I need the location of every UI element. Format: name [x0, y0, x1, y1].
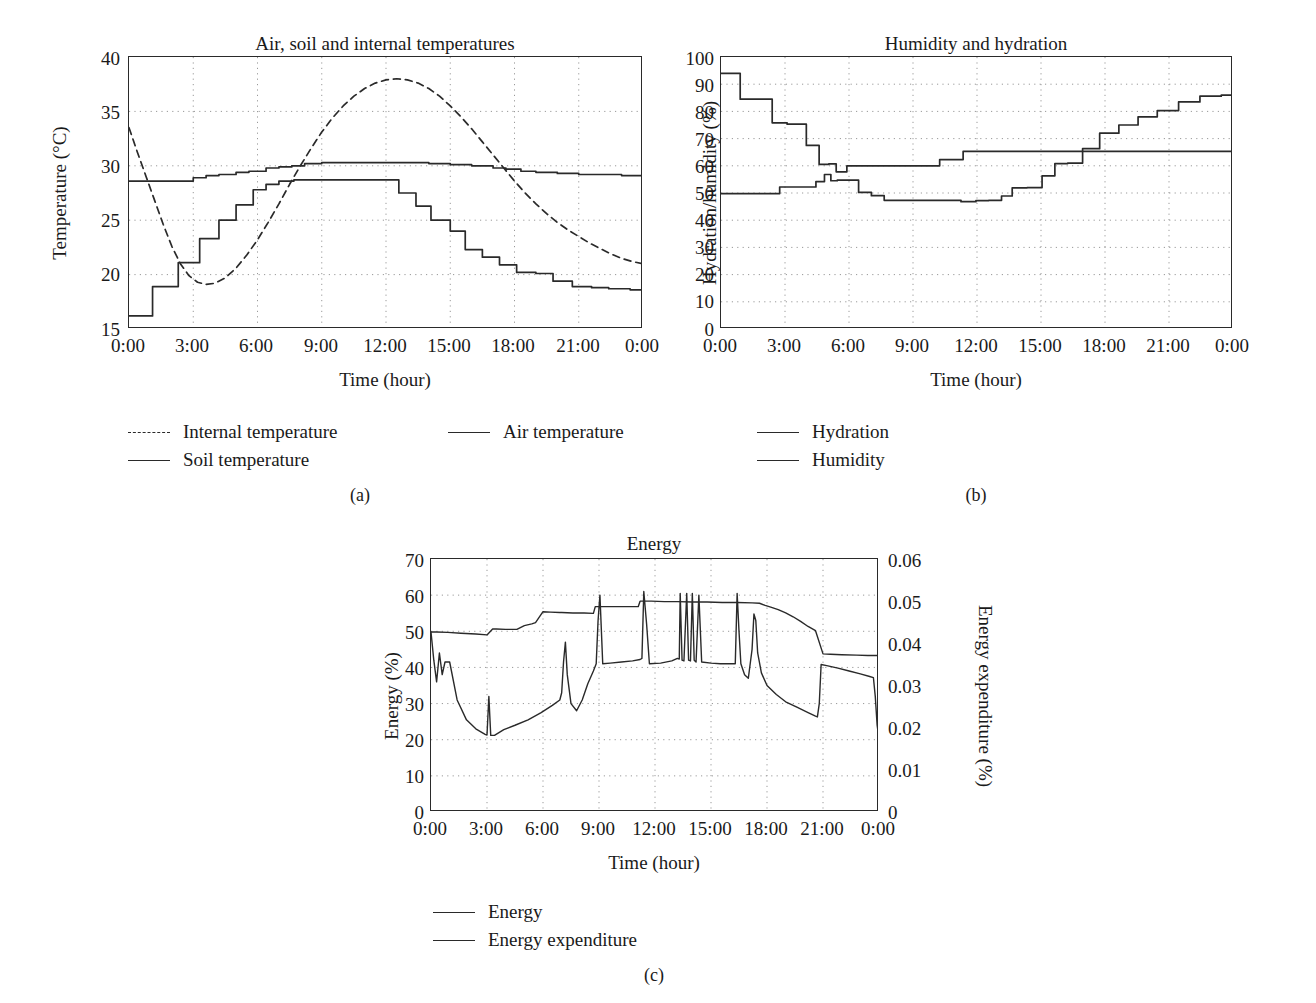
legend-label: Hydration: [812, 421, 889, 443]
legend-label: Soil temperature: [183, 449, 309, 471]
x-tick-a: 18:00: [479, 336, 547, 355]
legend-line-solid-icon: [128, 460, 170, 461]
legend-label: Internal temperature: [183, 421, 338, 443]
legend-item[interactable]: Internal temperature: [128, 418, 448, 446]
y-tick-b: 70: [662, 130, 714, 149]
series-b: [721, 73, 1232, 201]
subfigure-caption-c: (c): [594, 965, 714, 986]
y-tick-a: 30: [68, 157, 120, 176]
legend-c: Energy Energy expenditure: [433, 898, 637, 954]
plot-area-b: [720, 56, 1232, 328]
y-tick-right-c: 0.02: [888, 719, 960, 738]
legend-line-solid-icon: [433, 940, 475, 941]
x-tick-b: 0:00: [686, 336, 754, 355]
y-tick-c: 50: [372, 623, 424, 642]
legend-item[interactable]: Humidity: [757, 446, 889, 474]
y-tick-c: 70: [372, 551, 424, 570]
plot-svg-b: [721, 57, 1232, 328]
x-axis-label-c: Time (hour): [430, 852, 878, 874]
x-tick-b: 6:00: [814, 336, 882, 355]
y-tick-b: 100: [662, 49, 714, 68]
x-tick-a: 15:00: [415, 336, 483, 355]
subfigure-caption-a: (a): [300, 485, 420, 506]
legend-item[interactable]: Hydration: [757, 418, 889, 446]
y-tick-a: 35: [68, 103, 120, 122]
x-tick-b: 9:00: [878, 336, 946, 355]
legend-label: Energy expenditure: [488, 929, 637, 951]
x-tick-a: 12:00: [351, 336, 419, 355]
legend-item[interactable]: Energy expenditure: [433, 926, 637, 954]
plot-svg-c: [431, 559, 878, 811]
x-tick-a: 21:00: [544, 336, 612, 355]
legend-label: Air temperature: [503, 421, 624, 443]
x-tick-b: 12:00: [942, 336, 1010, 355]
x-tick-b: 15:00: [1006, 336, 1074, 355]
y-tick-b: 40: [662, 211, 714, 230]
x-tick-c: 0:00: [844, 819, 912, 838]
y-tick-b: 90: [662, 76, 714, 95]
grid-dots-a: [129, 57, 642, 328]
y-tick-a: 40: [68, 49, 120, 68]
y-tick-right-c: 0.04: [888, 635, 960, 654]
x-tick-b: 18:00: [1070, 336, 1138, 355]
y-tick-a: 20: [68, 265, 120, 284]
x-tick-a: 0:00: [94, 336, 162, 355]
series-line: [721, 88, 1232, 201]
series-line: [431, 601, 878, 655]
x-tick-a: 3:00: [158, 336, 226, 355]
y-tick-c: 30: [372, 695, 424, 714]
chart-title-b: Humidity and hydration: [720, 33, 1232, 55]
y-axis-label-right-c: Energy expenditure (%): [974, 551, 996, 841]
y-tick-right-c: 0.05: [888, 593, 960, 612]
panel-b: Humidity and hydration Hydration/humidit…: [660, 0, 1316, 520]
panel-a: Air, soil and internal temperatures Temp…: [0, 0, 660, 520]
panel-c: Energy Energy (%) Energy expenditure (%)…: [330, 520, 990, 1003]
grid-dots-c: [431, 559, 878, 811]
legend-a: Internal temperature Soil temperature Ai…: [128, 418, 624, 474]
legend-label: Humidity: [812, 449, 885, 471]
legend-item[interactable]: Soil temperature: [128, 446, 448, 474]
y-tick-a: 25: [68, 211, 120, 230]
legend-label: Energy: [488, 901, 543, 923]
legend-line-solid-icon: [757, 432, 799, 433]
y-tick-b: 10: [662, 292, 714, 311]
x-tick-b: 0:00: [1198, 336, 1266, 355]
legend-line-dashed-icon: [128, 432, 170, 433]
y-tick-b: 30: [662, 238, 714, 257]
figure-root: Air, soil and internal temperatures Temp…: [0, 0, 1316, 1003]
legend-b: Hydration Humidity: [757, 418, 889, 474]
legend-item[interactable]: Energy: [433, 898, 637, 926]
y-tick-b: 80: [662, 103, 714, 122]
x-tick-b: 21:00: [1134, 336, 1202, 355]
y-axis-label-a: Temperature (°C): [49, 93, 71, 293]
subfigure-caption-b: (b): [916, 485, 1036, 506]
x-axis-label-b: Time (hour): [720, 369, 1232, 391]
grid-dots-b: [721, 57, 1232, 328]
plot-svg-a: [129, 57, 642, 328]
y-tick-b: 60: [662, 157, 714, 176]
y-tick-right-c: 0.03: [888, 677, 960, 696]
y-tick-c: 40: [372, 659, 424, 678]
legend-line-solid-icon: [448, 432, 490, 433]
legend-line-solid-icon: [433, 912, 475, 913]
plot-area-c: [430, 558, 878, 811]
y-tick-b: 50: [662, 184, 714, 203]
x-tick-a: 6:00: [222, 336, 290, 355]
x-tick-b: 3:00: [750, 336, 818, 355]
y-tick-b: 20: [662, 265, 714, 284]
series-a: [129, 79, 642, 316]
y-tick-right-c: 0.01: [888, 761, 960, 780]
y-tick-c: 10: [372, 767, 424, 786]
y-tick-c: 60: [372, 587, 424, 606]
y-tick-c: 20: [372, 731, 424, 750]
chart-title-c: Energy: [430, 533, 878, 555]
plot-area-a: [128, 56, 642, 328]
y-tick-right-c: 0.06: [888, 551, 960, 570]
x-axis-label-a: Time (hour): [128, 369, 642, 391]
x-tick-a: 9:00: [287, 336, 355, 355]
chart-title-a: Air, soil and internal temperatures: [128, 33, 642, 55]
legend-line-solid-icon: [757, 460, 799, 461]
legend-item[interactable]: Air temperature: [448, 418, 624, 446]
